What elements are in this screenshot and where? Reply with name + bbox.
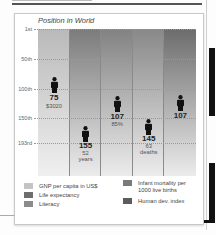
legend-swatch [24,183,33,189]
person-icon [110,96,124,112]
page-edge-bar [209,163,215,223]
legend-swatch [24,192,33,198]
legend-swatch [24,201,33,207]
header-rule [12,3,202,5]
point-annotation: 85% [101,121,133,128]
page-edge-line [206,0,207,230]
legend-swatch [123,180,132,186]
person-icon [79,126,93,142]
legend-label: GNP per capita in US$ [39,183,98,190]
header-rule-faint [12,0,92,1]
y-tick-label: 150th [18,115,32,121]
legend-swatch [123,198,132,204]
legend-label: 1000 live births [138,187,186,194]
gridline [34,29,196,30]
y-tick-label: 100th [18,86,32,92]
point-value: 75 [38,93,70,102]
y-tick-label: 50th [21,56,32,62]
point-value: 107 [101,112,133,121]
person-icon [142,119,156,135]
legend-item: GNP per capita in US$ [24,183,98,190]
y-tick-label: 1st [25,26,32,32]
legend-label: Human dev. index [138,198,184,205]
point-value: 155 [70,141,102,150]
gridline [34,59,196,60]
legend-label: Life expectancy [39,192,79,199]
plot-area: 1st 50th 100th 150th 193rd 75 $3020 155 … [38,29,196,176]
legend-label: Infant mortality per [138,180,186,187]
person-icon [173,95,187,111]
legend-item: Life expectancy [24,192,79,199]
point-value: 145 [133,134,165,143]
legend-label: Literacy [39,201,59,208]
point-annotation: deaths [133,149,165,156]
gridline [34,143,196,144]
person-icon [47,77,61,93]
legend-item: Literacy [24,201,59,208]
page-edge-bar [209,48,215,116]
legend-item: Infant mortality per 1000 live births [123,180,186,194]
point-annotation: $3020 [38,103,70,110]
point-value: 107 [164,111,196,120]
point-annotation: years [70,156,102,163]
chart-title: Position in World [38,16,94,25]
y-tick-label: 193rd [18,140,32,146]
legend-item: Human dev. index [123,198,184,205]
